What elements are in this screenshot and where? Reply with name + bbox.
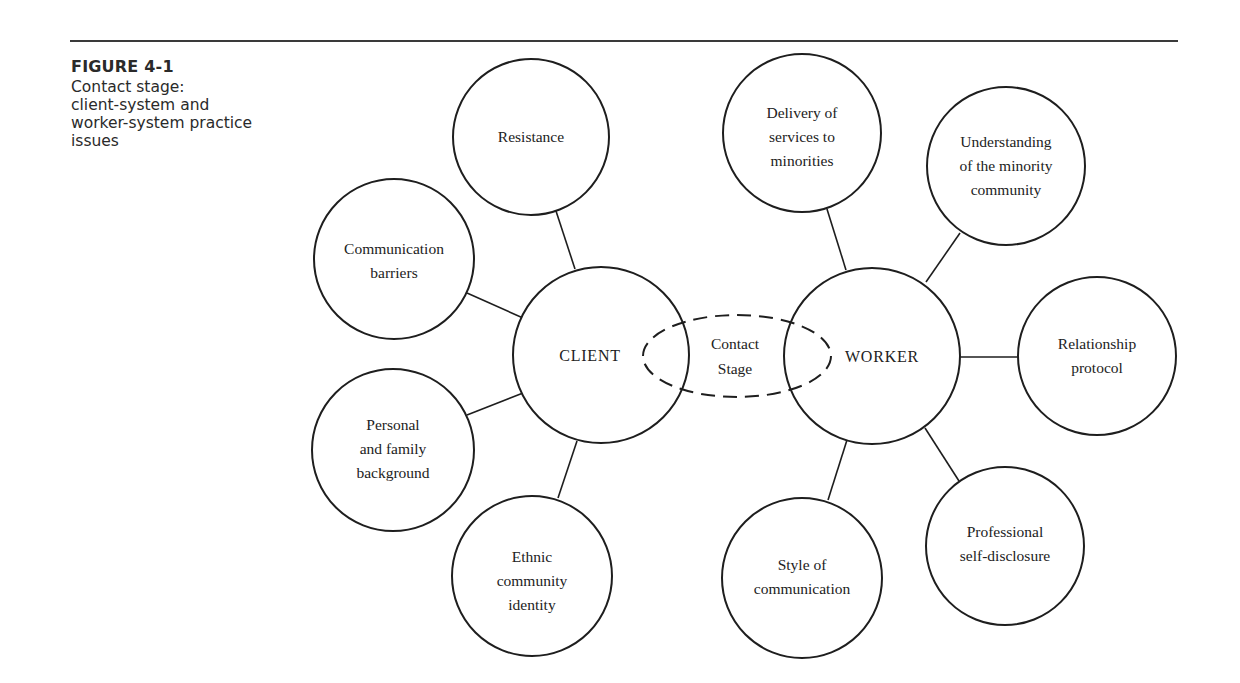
connector-personal-client	[467, 393, 523, 415]
connector-resistance-client	[556, 211, 575, 269]
node-resistance-line-1: Resistance	[498, 128, 564, 145]
connector-ethnic-client	[558, 441, 577, 498]
node-personal-line-2: and family	[360, 440, 427, 457]
hub-worker-label: WORKER	[845, 348, 919, 365]
contact-stage-line-2: Stage	[718, 360, 753, 377]
node-communication-barriers: Communication barriers	[314, 179, 474, 339]
hub-worker: WORKER	[784, 268, 960, 444]
connector-professional-worker	[925, 428, 959, 481]
node-resistance: Resistance	[453, 59, 609, 215]
connector-style-worker	[828, 440, 847, 500]
connector-communication-client	[467, 293, 523, 318]
node-delivery-line-2: services to	[769, 128, 835, 145]
node-ethnic-community-identity: Ethnic community identity	[452, 496, 612, 656]
node-ethnic-line-3: identity	[508, 596, 556, 613]
node-personal-line-1: Personal	[366, 416, 419, 433]
node-delivery-line-1: Delivery of	[766, 104, 838, 121]
contact-stage-line-1: Contact	[711, 335, 760, 352]
node-ethnic-line-2: community	[497, 572, 568, 589]
node-understanding-line-3: community	[971, 181, 1042, 198]
node-professional-line-1: Professional	[967, 523, 1044, 540]
node-understanding-minority-community: Understanding of the minority community	[927, 87, 1085, 245]
node-understanding-line-1: Understanding	[960, 133, 1052, 150]
node-style-of-communication: Style of communication	[722, 498, 882, 658]
node-relationship-line-2: protocol	[1071, 359, 1123, 376]
node-delivery-of-services: Delivery of services to minorities	[723, 54, 881, 212]
connector-delivery-worker	[827, 209, 846, 270]
node-relationship-protocol: Relationship protocol	[1018, 277, 1176, 435]
node-understanding-line-2: of the minority	[960, 157, 1053, 174]
node-communication-barriers-line-2: barriers	[370, 264, 417, 281]
node-communication-barriers-line-1: Communication	[344, 240, 444, 257]
hub-client-label: CLIENT	[559, 347, 621, 364]
node-style-line-2: communication	[754, 580, 851, 597]
node-style-line-1: Style of	[778, 556, 827, 573]
node-professional-line-2: self-disclosure	[960, 547, 1051, 564]
contact-stage-diagram: Resistance Communication barriers Person…	[0, 0, 1240, 683]
node-relationship-line-1: Relationship	[1058, 335, 1137, 352]
node-personal-family-background: Personal and family background	[312, 369, 474, 531]
node-ethnic-line-1: Ethnic	[512, 548, 553, 565]
node-professional-self-disclosure: Professional self-disclosure	[926, 467, 1084, 625]
node-personal-line-3: background	[356, 464, 429, 481]
node-delivery-line-3: minorities	[771, 152, 834, 169]
connector-understanding-worker	[926, 233, 960, 282]
hub-client: CLIENT	[513, 267, 689, 443]
